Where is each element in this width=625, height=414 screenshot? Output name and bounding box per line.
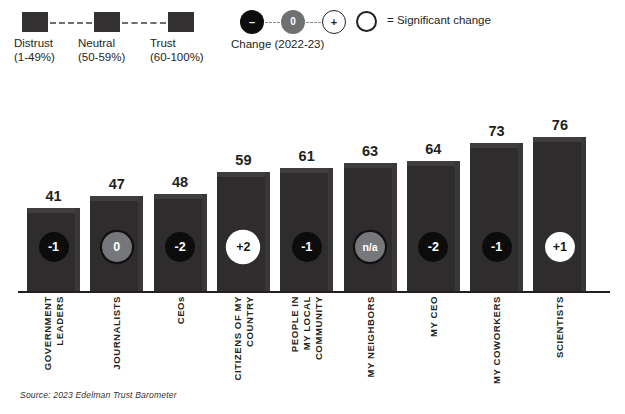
bar: -1 <box>280 168 333 292</box>
ring-icon <box>356 11 377 32</box>
chart-category-labels: GOVERNMENTLEADERSJOURNALISTSCEOsCITIZENS… <box>0 296 625 392</box>
category-label-8: MY COWORKERS <box>470 296 523 388</box>
positive-change-marker: + <box>322 10 346 34</box>
category-label-line: COMMUNITY <box>313 296 324 360</box>
category-label-line: CEOs <box>175 296 186 324</box>
chart-legend: Distrust (1-49%) Neutral (50-59%) Trust … <box>0 0 625 58</box>
legend-dash-1 <box>50 22 92 24</box>
category-label-9: SCIENTISTS <box>533 296 586 388</box>
category-label-2: JOURNALISTS <box>90 296 143 388</box>
chart-source-note: Source: 2023 Edelman Trust Barometer <box>20 390 177 400</box>
bar: -2 <box>154 194 207 292</box>
category-label-4: CITIZENS OF MYCOUNTRY <box>217 296 270 388</box>
bar-side-face <box>75 208 80 292</box>
category-label-line: MY COWORKERS <box>491 296 502 384</box>
significant-change-text: = Significant change <box>387 14 491 26</box>
bar-group: n/a63 <box>344 137 397 292</box>
bar-value-label: 73 <box>470 123 523 139</box>
bar-side-face <box>392 163 397 292</box>
bar-top-face <box>217 172 270 177</box>
category-label-5: PEOPLE INMY LOCALCOMMUNITY <box>280 296 333 388</box>
bar-side-face <box>328 168 333 292</box>
change-badge: -1 <box>482 232 512 262</box>
bar: -2 <box>407 161 460 292</box>
bar-top-face <box>27 208 80 213</box>
legend-dash-2 <box>122 22 166 24</box>
bar: n/a <box>344 163 397 292</box>
bar-top-face <box>280 168 333 173</box>
category-label-line: MY CEO <box>428 296 439 337</box>
change-badge: 0 <box>102 232 132 262</box>
bar: +2 <box>217 172 270 292</box>
bar-group: -248 <box>154 168 207 292</box>
neutral-swatch <box>94 12 120 32</box>
bar-value-label: 59 <box>217 152 270 168</box>
change-legend-title: Change (2022-23) <box>231 38 324 50</box>
trust-label: Trust <box>150 37 224 51</box>
bar-top-face <box>407 161 460 166</box>
category-label-line: SCIENTISTS <box>554 296 565 358</box>
bar: -1 <box>27 208 80 292</box>
bar-value-label: 64 <box>407 141 460 157</box>
bar-side-face <box>581 137 586 292</box>
category-label-line: CITIZENS OF MY <box>232 296 243 380</box>
bar-chart-plot: -141047-248+259-161n/a63-264-173+176 <box>0 58 625 292</box>
category-label-line: JOURNALISTS <box>111 296 122 370</box>
significant-change-legend: = Significant change <box>356 10 606 34</box>
category-label-line: COUNTRY <box>244 296 255 347</box>
bar-side-face <box>202 194 207 292</box>
category-label-6: MY NEIGHBORS <box>344 296 397 388</box>
bar: -1 <box>470 143 523 292</box>
bar-group: 047 <box>90 170 143 292</box>
bar-value-label: 48 <box>154 174 207 190</box>
no-change-marker: 0 <box>281 10 305 34</box>
category-label-line: PEOPLE IN <box>289 296 300 352</box>
distrust-swatch <box>22 12 48 32</box>
bar-top-face <box>154 194 207 199</box>
bar-top-face <box>344 163 397 168</box>
bar-side-face <box>518 143 523 292</box>
negative-change-marker: – <box>240 10 264 34</box>
change-badge: -2 <box>165 232 195 262</box>
category-label-line: GOVERNMENT <box>42 296 53 370</box>
bar-side-face <box>138 196 143 292</box>
trust-scale-swatches <box>22 12 202 32</box>
bar-group: +259 <box>217 146 270 292</box>
change-badge: -2 <box>418 232 448 262</box>
bar-group: -141 <box>27 182 80 292</box>
change-badge: +1 <box>545 232 575 262</box>
bar-group: +176 <box>533 111 586 292</box>
bar: 0 <box>90 196 143 292</box>
bar-side-face <box>455 161 460 292</box>
category-label-7: MY CEO <box>407 296 460 388</box>
bar-side-face <box>265 172 270 292</box>
category-label-line: MY NEIGHBORS <box>365 296 376 378</box>
change-legend-dash-2 <box>306 22 321 23</box>
bar-value-label: 76 <box>533 117 586 133</box>
bar-group: -173 <box>470 117 523 292</box>
bar-value-label: 61 <box>280 148 333 164</box>
trust-swatch <box>168 12 194 32</box>
bar: +1 <box>533 137 586 292</box>
neutral-label: Neutral <box>78 37 148 51</box>
distrust-label: Distrust <box>14 37 80 51</box>
bar-value-label: 63 <box>344 143 397 159</box>
change-badge: +2 <box>228 232 258 262</box>
change-badge: n/a <box>355 232 385 262</box>
change-badge: -1 <box>39 232 69 262</box>
category-label-line: MY LOCAL <box>301 296 312 350</box>
bar-group: -161 <box>280 142 333 292</box>
change-legend-markers: – 0 + <box>240 10 340 34</box>
bar-value-label: 41 <box>27 188 80 204</box>
bar-top-face <box>533 137 586 142</box>
bar-top-face <box>90 196 143 201</box>
change-legend-dash-1 <box>265 22 280 23</box>
chart-baseline <box>18 291 610 293</box>
bar-value-label: 47 <box>90 176 143 192</box>
bar-group: -264 <box>407 135 460 292</box>
category-label-line: LEADERS <box>54 296 65 346</box>
bar-top-face <box>470 143 523 148</box>
category-label-3: CEOs <box>154 296 207 388</box>
category-label-1: GOVERNMENTLEADERS <box>27 296 80 388</box>
change-badge: -1 <box>292 232 322 262</box>
